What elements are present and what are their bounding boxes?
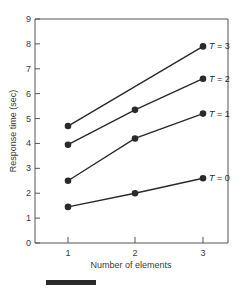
y-tick-label: 6 [26,89,31,99]
data-point-marker [200,75,207,82]
y-tick-label: 0 [26,238,31,248]
data-point-marker [132,107,139,114]
data-point-marker [200,110,207,117]
data-point-marker [65,177,72,184]
y-tick-label: 4 [26,138,31,148]
series-label: T = 1 [209,109,230,119]
series-label: T = 3 [209,41,230,51]
y-axis: 0123456789 [26,14,40,248]
data-point-marker [200,175,207,182]
x-tick-label: 3 [200,248,205,258]
y-tick-label: 1 [26,213,31,223]
y-tick-label: 5 [26,114,31,124]
series-t2: T = 2 [65,74,230,148]
data-point-marker [65,123,72,130]
chart: 0123456789 123 T = 3T = 2T = 1T = 0 Numb… [0,0,247,289]
data-point-marker [65,141,72,148]
x-axis-title: Number of elements [90,260,172,270]
data-point-marker [132,135,139,142]
y-tick-label: 2 [26,188,31,198]
series-label: T = 2 [209,74,230,84]
series-label: T = 0 [209,173,230,183]
series-t0: T = 0 [65,173,230,210]
y-tick-label: 9 [26,14,31,24]
y-tick-label: 7 [26,64,31,74]
series-t1: T = 1 [65,109,230,185]
series-group: T = 3T = 2T = 1T = 0 [65,41,230,210]
data-point-marker [65,204,72,211]
y-axis-title: Response time (sec) [8,90,18,173]
x-tick-label: 2 [132,248,137,258]
data-point-marker [200,43,207,50]
x-axis: 123 [65,237,205,258]
x-tick-label: 1 [65,248,70,258]
plot-frame [35,19,228,243]
scale-bar [46,280,96,285]
y-tick-label: 3 [26,163,31,173]
y-tick-label: 8 [26,39,31,49]
data-point-marker [132,190,139,197]
